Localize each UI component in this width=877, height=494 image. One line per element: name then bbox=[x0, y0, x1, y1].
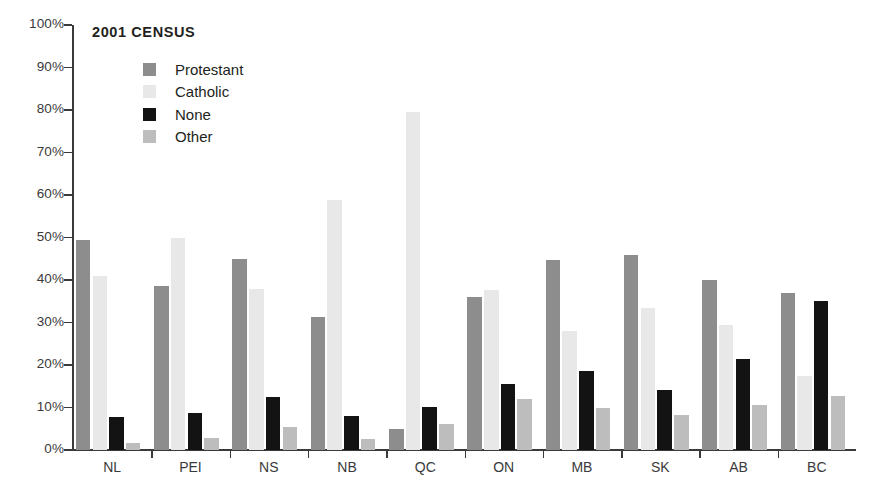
y-tick-mark bbox=[64, 322, 72, 324]
x-group-label-qc: QC bbox=[386, 459, 464, 475]
bar-sk-none bbox=[657, 390, 672, 450]
bar-group bbox=[73, 25, 151, 450]
bar-pei-protestant bbox=[154, 286, 169, 450]
y-tick-label: 30% bbox=[37, 314, 64, 329]
bar-mb-protestant bbox=[546, 260, 561, 450]
bar-group bbox=[543, 25, 621, 450]
bar-ab-protestant bbox=[702, 280, 717, 450]
bar-bc-protestant bbox=[781, 293, 796, 450]
x-tick-mark bbox=[778, 451, 780, 458]
bar-qc-protestant bbox=[389, 429, 404, 450]
bar-nl-protestant bbox=[76, 240, 91, 450]
x-tick-mark bbox=[465, 451, 467, 458]
bar-nb-none bbox=[344, 416, 359, 450]
y-tick-label: 100% bbox=[29, 16, 64, 31]
y-tick-mark bbox=[64, 449, 72, 451]
x-tick-mark bbox=[699, 451, 701, 458]
bar-mb-none bbox=[579, 371, 594, 450]
y-tick-label: 40% bbox=[37, 271, 64, 286]
x-group-label-ns: NS bbox=[230, 459, 308, 475]
x-group-label-nl: NL bbox=[73, 459, 151, 475]
bar-qc-other bbox=[439, 424, 454, 450]
y-tick-mark bbox=[64, 407, 72, 409]
bar-pei-catholic bbox=[171, 238, 186, 450]
bar-nb-protestant bbox=[311, 317, 326, 450]
y-tick-label: 70% bbox=[37, 144, 64, 159]
legend-item-catholic: Catholic bbox=[143, 81, 243, 104]
legend-label-catholic: Catholic bbox=[175, 83, 229, 100]
bar-mb-catholic bbox=[562, 331, 577, 450]
y-tick-mark bbox=[64, 194, 72, 196]
bar-group bbox=[386, 25, 464, 450]
bar-nb-catholic bbox=[327, 200, 342, 450]
bar-group bbox=[308, 25, 386, 450]
x-group-label-sk: SK bbox=[621, 459, 699, 475]
bar-qc-catholic bbox=[406, 112, 421, 450]
y-tick-mark bbox=[64, 109, 72, 111]
legend-swatch-other bbox=[143, 130, 156, 143]
y-tick-mark bbox=[64, 279, 72, 281]
chart-legend: ProtestantCatholicNoneOther bbox=[143, 58, 243, 148]
bar-sk-protestant bbox=[624, 255, 639, 450]
y-tick-mark bbox=[64, 364, 72, 366]
bar-on-other bbox=[517, 399, 532, 450]
x-tick-mark bbox=[543, 451, 545, 458]
bar-ns-catholic bbox=[249, 289, 264, 451]
x-tick-mark bbox=[621, 451, 623, 458]
bar-sk-catholic bbox=[641, 308, 656, 450]
y-tick-label: 50% bbox=[37, 229, 64, 244]
bar-ab-catholic bbox=[719, 325, 734, 450]
bar-bc-none bbox=[814, 301, 829, 450]
bar-ns-none bbox=[266, 397, 281, 450]
y-tick-mark bbox=[64, 67, 72, 69]
legend-swatch-none bbox=[143, 108, 156, 121]
x-group-label-ab: AB bbox=[699, 459, 777, 475]
legend-label-other: Other bbox=[175, 128, 213, 145]
bar-sk-other bbox=[674, 415, 689, 450]
bar-on-protestant bbox=[467, 297, 482, 450]
bar-group bbox=[465, 25, 543, 450]
bar-pei-none bbox=[188, 413, 203, 450]
y-tick-label: 60% bbox=[37, 186, 64, 201]
bar-group bbox=[699, 25, 777, 450]
bar-nb-other bbox=[361, 439, 376, 450]
bar-ns-protestant bbox=[232, 259, 247, 450]
y-tick-label: 20% bbox=[37, 356, 64, 371]
bar-mb-other bbox=[596, 408, 611, 450]
x-group-label-nb: NB bbox=[308, 459, 386, 475]
x-tick-mark bbox=[386, 451, 388, 458]
bar-ab-other bbox=[752, 405, 767, 450]
legend-label-protestant: Protestant bbox=[175, 61, 243, 78]
bar-nl-none bbox=[109, 417, 124, 450]
bar-ab-none bbox=[736, 359, 751, 450]
legend-item-none: None bbox=[143, 103, 243, 126]
legend-label-none: None bbox=[175, 106, 211, 123]
bar-nl-other bbox=[126, 443, 141, 450]
bar-bc-other bbox=[831, 396, 846, 450]
x-tick-mark bbox=[151, 451, 153, 458]
y-tick-label: 90% bbox=[37, 59, 64, 74]
x-group-label-bc: BC bbox=[778, 459, 856, 475]
x-group-label-on: ON bbox=[465, 459, 543, 475]
x-group-label-pei: PEI bbox=[151, 459, 229, 475]
bar-on-none bbox=[501, 384, 516, 450]
x-tick-mark bbox=[230, 451, 232, 458]
bar-on-catholic bbox=[484, 290, 499, 450]
legend-swatch-catholic bbox=[143, 85, 156, 98]
y-tick-mark bbox=[64, 152, 72, 154]
y-tick-mark bbox=[64, 237, 72, 239]
bar-group bbox=[621, 25, 699, 450]
bar-qc-none bbox=[422, 407, 437, 450]
bar-group bbox=[778, 25, 856, 450]
bar-chart: 0%10%20%30%40%50%60%70%80%90%100% NLPEIN… bbox=[0, 0, 877, 494]
x-group-label-mb: MB bbox=[543, 459, 621, 475]
bar-ns-other bbox=[283, 427, 298, 450]
bar-nl-catholic bbox=[93, 276, 108, 450]
bar-bc-catholic bbox=[797, 376, 812, 450]
x-tick-mark bbox=[308, 451, 310, 458]
legend-item-protestant: Protestant bbox=[143, 58, 243, 81]
bar-pei-other bbox=[204, 438, 219, 450]
y-tick-mark bbox=[64, 24, 72, 26]
y-tick-label: 10% bbox=[37, 399, 64, 414]
y-tick-label: 0% bbox=[44, 441, 64, 456]
